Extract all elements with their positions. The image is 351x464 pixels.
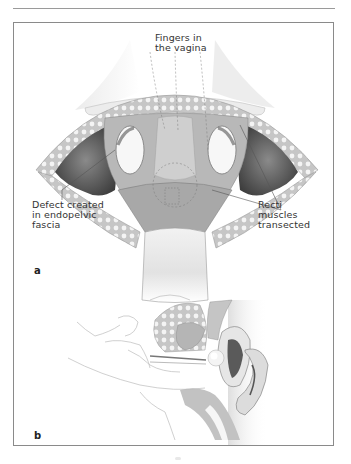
scan-artifact [175, 457, 181, 460]
panel-a-letter: a [34, 265, 41, 276]
label-defect-endopelvic-fascia: Defect created in endopelvic fascia [32, 200, 104, 230]
label-recti-muscles-transected: Recti muscles transected [258, 200, 310, 230]
label-fingers-in-vagina: Fingers in the vagina [155, 33, 207, 53]
medical-illustration [0, 0, 351, 464]
panel-a-illustration [36, 40, 318, 303]
panel-b-illustration [68, 295, 268, 445]
panel-b-letter: b [34, 430, 41, 441]
